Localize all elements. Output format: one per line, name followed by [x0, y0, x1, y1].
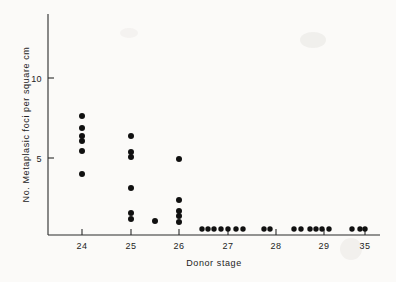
data-point [205, 226, 210, 231]
x-tick-label: 28 [271, 241, 282, 251]
x-tick-label: 35 [360, 241, 371, 251]
x-axis-ticks: 24252627282935 [77, 229, 371, 251]
data-point [313, 226, 318, 231]
y-tick-label: 10 [31, 74, 42, 84]
data-point [128, 216, 134, 222]
data-point [298, 226, 303, 231]
chart-svg: 510 24252627282935 Donor stage No. Metap… [0, 0, 396, 282]
data-point [128, 133, 134, 139]
x-tick-label: 27 [223, 241, 234, 251]
x-tick-label: 29 [319, 241, 330, 251]
data-point [79, 125, 85, 131]
y-axis-ticks: 510 [31, 74, 54, 164]
data-point [225, 226, 230, 231]
data-point [176, 197, 182, 203]
data-point [176, 219, 182, 225]
data-point [349, 226, 354, 231]
data-point [79, 113, 85, 119]
x-tick-label: 24 [77, 241, 88, 251]
data-point [233, 226, 238, 231]
data-point [79, 138, 85, 144]
data-point [176, 213, 182, 219]
data-point [362, 226, 367, 231]
data-point [79, 171, 85, 177]
data-point [211, 226, 216, 231]
data-point [128, 210, 134, 216]
figure-panel: 510 24252627282935 Donor stage No. Metap… [0, 0, 396, 282]
data-point [176, 156, 182, 162]
data-point [199, 226, 204, 231]
data-point [128, 185, 134, 191]
data-point [357, 226, 362, 231]
data-point [128, 154, 134, 160]
x-axis-title: Donor stage [186, 258, 242, 268]
data-point [79, 148, 85, 154]
data-point [218, 226, 223, 231]
data-point [291, 226, 296, 231]
y-tick-label: 5 [37, 154, 42, 164]
data-points-layer [79, 113, 368, 232]
y-axis-title: No. Metaplasic foci per square cm [21, 47, 31, 203]
x-tick-label: 25 [126, 241, 137, 251]
data-point [319, 226, 324, 231]
data-point [261, 226, 266, 231]
x-tick-label: 26 [174, 241, 185, 251]
data-point [307, 226, 312, 231]
data-point [326, 226, 331, 231]
data-point [152, 218, 158, 224]
scatter-plot: 510 24252627282935 Donor stage No. Metap… [0, 0, 396, 282]
data-point [240, 226, 245, 231]
data-point [267, 226, 272, 231]
